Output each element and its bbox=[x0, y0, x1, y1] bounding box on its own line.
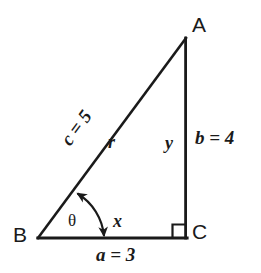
vertical-leg-label: b = 4 bbox=[195, 128, 234, 147]
base-leg-label: a = 3 bbox=[96, 245, 135, 264]
vertex-label-a: A bbox=[192, 14, 206, 35]
angle-theta-label: θ bbox=[68, 212, 76, 229]
vertex-label-c: C bbox=[192, 221, 207, 242]
triangle-figure: A B C c = 5 r y b = 4 x a = 3 θ bbox=[0, 0, 261, 273]
base-leg-variable-label: x bbox=[113, 212, 122, 230]
vertical-leg-variable-label: y bbox=[165, 134, 173, 152]
hypotenuse-variable-label: r bbox=[108, 133, 115, 151]
right-angle-marker bbox=[173, 225, 187, 239]
angle-theta-arc bbox=[78, 194, 105, 237]
vertex-label-b: B bbox=[13, 224, 27, 245]
